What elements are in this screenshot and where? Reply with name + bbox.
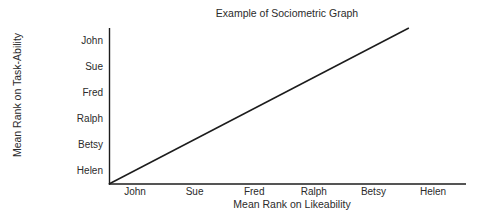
sociometric-graph-figure: Example of Sociometric Graph Mean Rank o… [0,0,480,222]
plot-area [0,0,480,222]
diagonal-series-line [109,28,409,184]
